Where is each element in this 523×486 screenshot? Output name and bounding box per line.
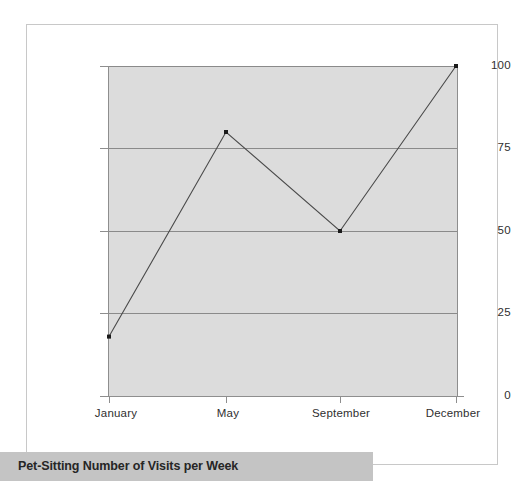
x-tick-mark-may: [226, 396, 227, 403]
chart-caption: Pet-Sitting Number of Visits per Week: [18, 459, 238, 474]
gridline-25: [109, 313, 457, 314]
x-tick-mark-september: [340, 396, 341, 403]
y-tick-label-50: 50: [423, 225, 523, 237]
y-tick-mark-0: [100, 396, 109, 397]
y-tick-mark-100: [100, 66, 109, 67]
axis-line-top: [100, 66, 456, 67]
x-tick-label-january: January: [95, 408, 137, 420]
x-tick-mark-december: [456, 396, 457, 403]
x-tick-label-september: September: [312, 408, 370, 420]
x-tick-mark-january: [109, 396, 110, 403]
plot-area: [108, 66, 458, 396]
y-tick-mark-75: [100, 148, 109, 149]
y-tick-mark-25: [100, 313, 109, 314]
y-tick-label-100: 100: [423, 60, 523, 72]
x-tick-label-december: December: [426, 408, 481, 420]
chart-figure: 100 75 50 25 0 January May September Dec…: [0, 0, 523, 486]
axis-line-x: [100, 396, 464, 397]
y-tick-label-75: 75: [423, 142, 523, 154]
y-tick-mark-50: [100, 231, 109, 232]
gridline-75: [109, 148, 457, 149]
gridline-50: [109, 231, 457, 232]
y-tick-label-25: 25: [423, 307, 523, 319]
x-tick-label-may: May: [217, 408, 239, 420]
y-tick-label-0: 0: [423, 390, 523, 402]
